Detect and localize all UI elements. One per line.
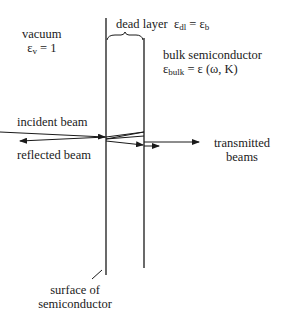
transmitted-beam-arrow-1 [144, 132, 195, 142]
vacuum-permittivity: εv = 1 [22, 41, 62, 55]
value: = ε (ω, K) [184, 62, 238, 76]
dead-layer-text: dead layer [116, 17, 168, 31]
incident-beam-label: incident beam [17, 115, 87, 129]
internal-ray-4 [106, 141, 143, 145]
equals: = ε [186, 17, 205, 31]
transmitted-text: transmitted [203, 136, 281, 150]
bulk-text: bulk semiconductor [163, 48, 262, 62]
surface-label: surface of semiconductor [20, 283, 130, 311]
bulk-label: bulk semiconductor εbulk = ε (ω, K) [163, 48, 262, 76]
vacuum-text: vacuum [22, 27, 62, 41]
dead-layer-brace [107, 32, 143, 40]
transmitted-beams-label: transmitted beams [203, 136, 281, 164]
subscript: bulk [168, 67, 184, 77]
surface-text: surface of [20, 283, 130, 297]
surface-pointer-line [92, 270, 102, 279]
beams-text: beams [203, 150, 281, 164]
reflected-beam-arrow [20, 137, 106, 141]
dead-layer-label: dead layer εdl = εb [116, 17, 209, 31]
semiconductor-text: semiconductor [20, 297, 130, 311]
value: = 1 [37, 41, 57, 55]
subscript: b [205, 22, 210, 32]
bulk-permittivity: εbulk = ε (ω, K) [163, 62, 262, 76]
incident-beam-arrow [0, 132, 105, 137]
vacuum-label: vacuum εv = 1 [22, 27, 62, 55]
reflected-beam-label: reflected beam [17, 148, 91, 162]
